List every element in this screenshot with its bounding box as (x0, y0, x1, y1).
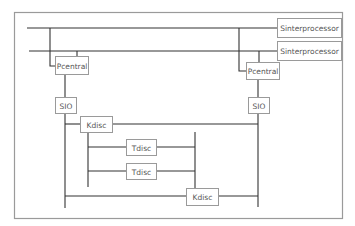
pcentral-left-label: Pcentral (57, 62, 88, 71)
connection-lines (27, 28, 277, 208)
kdisc-top-label: Kdisc (87, 121, 107, 130)
tdisc-2-label: Tdisc (131, 168, 151, 177)
kdisc-bottom-box: Kdisc (187, 189, 219, 206)
tdisc-1-label: Tdisc (131, 144, 151, 153)
bus1-to-pcentral-left (50, 28, 55, 66)
sinterprocessor-2-box: Sinterprocessor (278, 42, 342, 61)
tdisc-1-box: Tdisc (127, 140, 157, 156)
bus1-to-pcentral-right (239, 28, 246, 71)
sio-left-label: SIO (60, 102, 73, 111)
tdisc-2-box: Tdisc (127, 164, 157, 180)
sio-left-box: SIO (56, 98, 77, 114)
sinterprocessor-2-label: Sinterprocessor (280, 47, 340, 56)
sio-right-box: SIO (249, 98, 270, 114)
kdisc-bottom-label: Kdisc (193, 193, 213, 202)
kdisc-top-box: Kdisc (81, 117, 113, 133)
system-diagram: Sinterprocessor Sinterprocessor Pcentral… (0, 0, 355, 226)
pcentral-right-box: Pcentral (247, 63, 280, 80)
sinterprocessor-1-label: Sinterprocessor (280, 24, 340, 33)
pcentral-right-label: Pcentral (248, 67, 279, 76)
sio-right-label: SIO (253, 102, 266, 111)
sinterprocessor-1-box: Sinterprocessor (278, 19, 342, 38)
pcentral-left-box: Pcentral (56, 57, 89, 75)
